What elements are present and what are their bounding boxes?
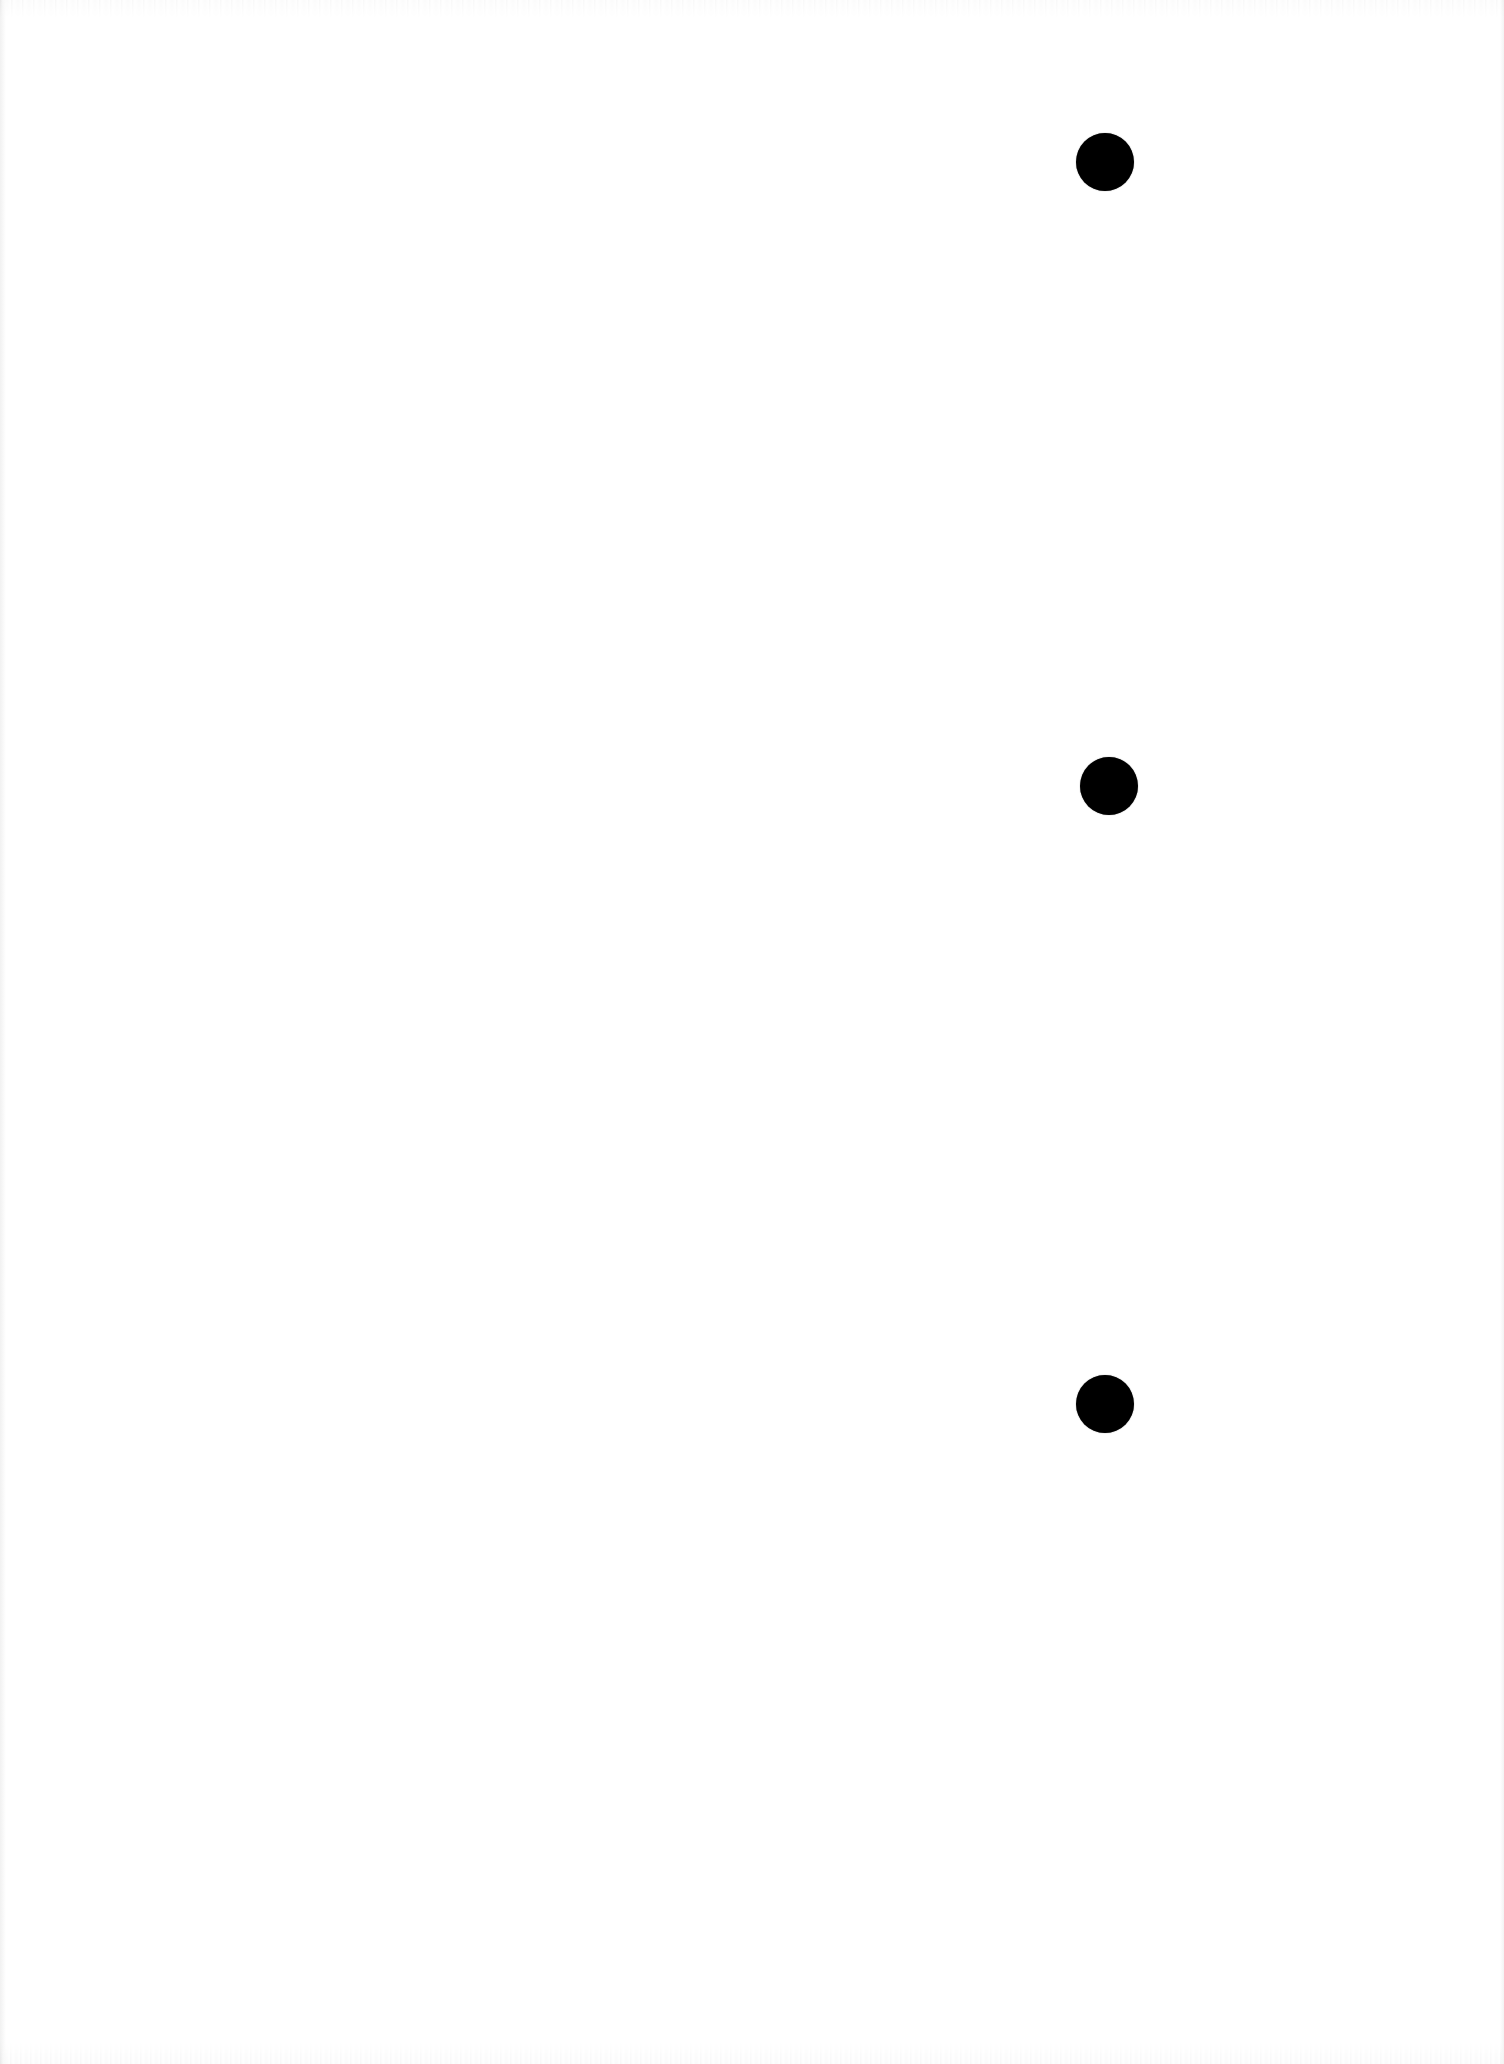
scan-bleed-bottom xyxy=(0,2042,1504,2064)
punch-hole-bottom xyxy=(1076,1375,1134,1433)
punch-hole-middle xyxy=(1080,757,1138,815)
punch-hole-top xyxy=(1076,133,1134,191)
blank-page xyxy=(0,0,1504,2064)
scan-bleed-top xyxy=(0,0,1504,18)
scan-edge-right xyxy=(1500,0,1504,2064)
scan-edge-left xyxy=(0,0,6,2064)
